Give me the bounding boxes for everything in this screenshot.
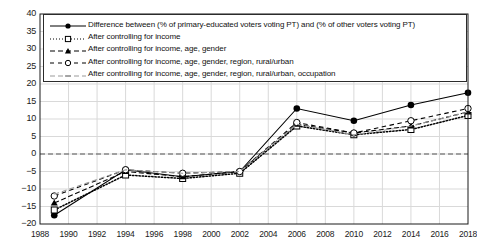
x-axis-tick-label: 2002 [231,230,249,239]
x-axis-tick-label: 1996 [145,230,163,239]
x-axis-tick-label: 1988 [31,230,49,239]
x-axis-tick-label: 2008 [316,230,334,239]
legend-item: After controlling for income, age, gende… [48,68,464,80]
legend-key-icon [48,55,88,67]
x-axis-tick-label: 2000 [202,230,220,239]
x-axis-tick-label: 2016 [430,230,448,239]
x-axis-tick-label: 2014 [402,230,420,239]
x-axis-tick-label: 2006 [288,230,306,239]
legend-key-icon [48,18,88,30]
legend-item-label: Difference between (% of primary-educate… [88,20,415,29]
x-axis-tick-label: 1990 [59,230,77,239]
legend-item: After controlling for income [48,30,464,42]
x-axis-tick-label: 2010 [345,230,363,239]
x-axis-tick-label: 2012 [373,230,391,239]
legend-item: After controlling for income, age, gende… [48,55,464,67]
x-axis-tick-label: 2004 [259,230,277,239]
legend-item-label: After controlling for income, age, gende… [88,57,293,66]
x-axis-tick-label: 1994 [117,230,135,239]
chart-legend: Difference between (% of primary-educate… [43,14,467,82]
legend-item: Difference between (% of primary-educate… [48,18,464,30]
legend-item-label: After controlling for income, age, gende… [88,44,226,53]
legend-key-icon [48,43,88,55]
legend-key-icon [48,31,88,43]
legend-key-icon [48,68,88,80]
legend-item-label: After controlling for income [88,32,180,41]
x-axis-tick-label: 2018 [459,230,477,239]
legend-item-label: After controlling for income, age, gende… [88,69,335,78]
x-axis-tick-label: 1992 [88,230,106,239]
x-axis-tick-label: 1998 [174,230,192,239]
legend-item: After controlling for income, age, gende… [48,43,464,55]
